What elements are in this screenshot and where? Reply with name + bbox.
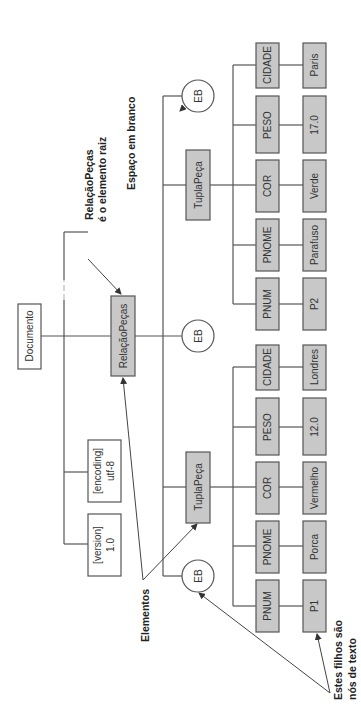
- svg-text:Estes filhos são: Estes filhos são: [332, 620, 344, 700]
- attribute-name: [encoding]: [92, 448, 103, 494]
- svg-text:EB: EB: [193, 569, 204, 583]
- whitespace-node-middle: EB: [182, 320, 214, 352]
- root-element-label: RelaçãoPeças: [118, 304, 129, 368]
- whitespace-node-top: EB: [182, 80, 214, 112]
- svg-text:TuplaPeça: TuplaPeça: [193, 463, 204, 511]
- svg-text:Espaço em branco: Espaço em branco: [125, 97, 137, 190]
- svg-text:CIDADE: CIDADE: [262, 348, 273, 386]
- svg-text:PNUM: PNUM: [262, 591, 273, 620]
- attribute-value: 1.0: [105, 538, 116, 552]
- svg-text:PNOME: PNOME: [262, 528, 273, 565]
- svg-text:COR: COR: [262, 175, 273, 197]
- svg-text:17.0: 17.0: [309, 115, 320, 135]
- svg-text:Porca: Porca: [309, 534, 320, 561]
- svg-text:é o elemento raiz: é o elemento raiz: [96, 137, 108, 222]
- svg-text:Elementos: Elementos: [139, 589, 151, 642]
- attribute-value: utf-8: [105, 461, 116, 481]
- svg-text:EB: EB: [193, 89, 204, 103]
- attribute-encoding: [encoding] utf-8: [88, 440, 121, 502]
- svg-text:RelaçãoPeças: RelaçãoPeças: [83, 149, 95, 220]
- svg-text:PNOME: PNOME: [262, 226, 273, 263]
- tuple-p2-fields: CIDADE Paris PESO 17.0 COR Verde PNOME P…: [256, 43, 326, 330]
- svg-text:Londres: Londres: [309, 349, 320, 385]
- svg-text:PNUM: PNUM: [262, 289, 273, 318]
- annotation-whitespace: Espaço em branco: [125, 97, 181, 190]
- svg-text:nós de texto: nós de texto: [346, 638, 358, 700]
- tuple-p1-fields: CIDADE Londres PESO 12.0 COR Vermelho PN…: [256, 345, 326, 632]
- annotation-root: RelaçãoPeças é o elemento raiz: [83, 137, 121, 294]
- whitespace-node-bottom: EB: [182, 560, 214, 592]
- tuple-node-p2: TuplaPeça: [186, 150, 210, 220]
- svg-text:Paris: Paris: [309, 54, 320, 77]
- svg-text:P2: P2: [309, 297, 320, 310]
- svg-text:EB: EB: [193, 329, 204, 343]
- svg-text:PESO: PESO: [262, 413, 273, 441]
- svg-text:PESO: PESO: [262, 111, 273, 139]
- xml-tree-diagram: Documento [encoding] utf-8 [version] 1.0…: [0, 0, 361, 726]
- document-node: Documento: [18, 304, 41, 369]
- svg-text:P1: P1: [309, 599, 320, 612]
- svg-text:Vermelho: Vermelho: [309, 466, 320, 509]
- svg-text:Verde: Verde: [309, 172, 320, 199]
- attribute-version: [version] 1.0: [88, 514, 121, 576]
- tuple-node-p1: TuplaPeça: [186, 452, 210, 523]
- svg-text:Parafuso: Parafuso: [309, 225, 320, 265]
- attribute-name: [version]: [92, 526, 103, 564]
- document-label: Documento: [24, 310, 35, 362]
- svg-text:12.0: 12.0: [309, 417, 320, 437]
- svg-text:COR: COR: [262, 477, 273, 499]
- svg-text:TuplaPeça: TuplaPeça: [193, 161, 204, 209]
- root-element-node: RelaçãoPeças: [111, 296, 135, 376]
- svg-text:CIDADE: CIDADE: [262, 46, 273, 84]
